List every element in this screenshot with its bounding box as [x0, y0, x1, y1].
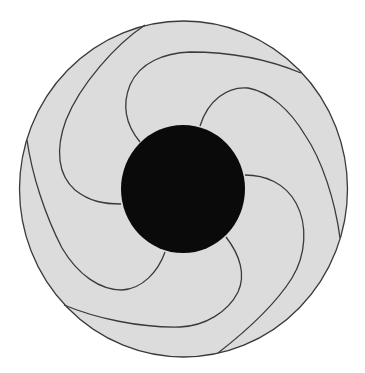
hub-circle — [121, 125, 245, 253]
diagram-canvas — [0, 0, 365, 373]
impeller-diagram — [0, 0, 365, 373]
